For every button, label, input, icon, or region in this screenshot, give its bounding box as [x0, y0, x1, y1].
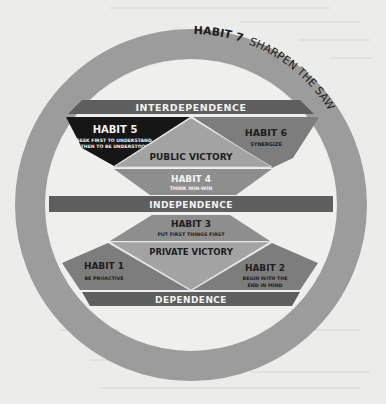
habit-2-title: HABIT 2 [245, 263, 285, 273]
habit-5-title: HABIT 5 [93, 124, 138, 135]
private-victory-label: PRIVATE VICTORY [149, 247, 234, 257]
diagram-canvas: HABIT 7 SHARPEN THE SAW INTERDEPENDENCE … [0, 0, 386, 404]
habit-2-line2: END IN MIND [248, 283, 283, 288]
habit-4-title: HABIT 4 [171, 174, 211, 184]
habits-diagram: HABIT 7 SHARPEN THE SAW INTERDEPENDENCE … [0, 0, 386, 404]
interdependence-label: INTERDEPENDENCE [136, 102, 247, 113]
independence-label: INDEPENDENCE [149, 200, 232, 210]
habit-1-title: HABIT 1 [84, 261, 124, 271]
habit-5-line1: SEEK FIRST TO UNDERSTAND, [77, 138, 154, 143]
public-victory-label: PUBLIC VICTORY [149, 152, 233, 162]
habit-6-line1: SYNERGIZE [250, 141, 282, 147]
habit-5-line2: THEN TO BE UNDERSTOOD [81, 144, 150, 149]
habit-6-title: HABIT 6 [245, 127, 288, 138]
habit-3-line1: PUT FIRST THINGS FIRST [157, 232, 225, 237]
dependence-label: DEPENDENCE [155, 295, 227, 305]
habit-4-line1: THINK WIN-WIN [170, 186, 212, 191]
habit-2-line1: BEGIN WITH THE [243, 276, 288, 281]
habit-3-title: HABIT 3 [171, 219, 211, 229]
habit-1-line1: BE PROACTIVE [84, 276, 123, 281]
